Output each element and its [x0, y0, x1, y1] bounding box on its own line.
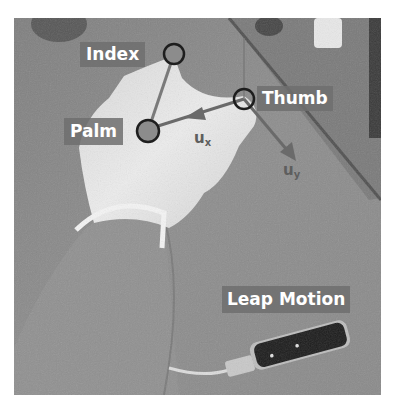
- photo: Index Palm Thumb Leap Motion ux uy: [14, 18, 381, 395]
- photo-grain: [14, 18, 381, 395]
- index-label: Index: [80, 42, 145, 67]
- thumb-label: Thumb: [257, 86, 333, 111]
- index-marker: [164, 44, 184, 64]
- ux-subscript: x: [205, 137, 211, 148]
- uy-subscript: y: [294, 169, 301, 180]
- uy-symbol: u: [283, 161, 294, 179]
- ux-symbol: u: [194, 129, 205, 147]
- palm-label: Palm: [64, 118, 123, 145]
- photo-scene: [14, 18, 381, 395]
- leap-motion-label: Leap Motion: [222, 286, 350, 313]
- ux-label: ux: [194, 131, 211, 148]
- palm-marker: [137, 120, 159, 142]
- uy-label: uy: [283, 163, 300, 180]
